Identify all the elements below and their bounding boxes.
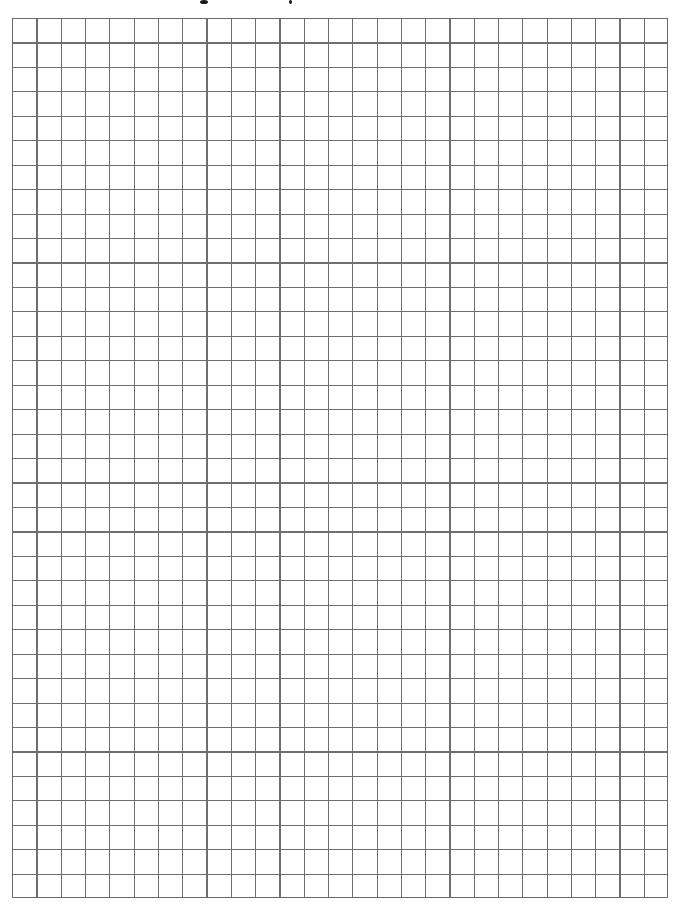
grid-horizontal-line xyxy=(13,214,667,215)
grid-horizontal-line xyxy=(13,654,667,655)
grid-horizontal-line xyxy=(13,140,667,141)
grid-horizontal-line xyxy=(13,360,667,361)
grid-horizontal-line xyxy=(13,629,667,630)
grid-horizontal-line xyxy=(13,776,667,777)
grid-horizontal-line xyxy=(13,409,667,410)
grid-horizontal-line xyxy=(13,580,667,581)
grid-horizontal-line xyxy=(13,42,667,43)
grid-horizontal-line xyxy=(13,678,667,679)
grid-horizontal-line xyxy=(13,434,667,435)
grid-horizontal-line xyxy=(13,91,667,92)
grid-horizontal-line xyxy=(13,336,667,337)
grid-horizontal-line xyxy=(13,703,667,704)
page-title-cropped xyxy=(0,0,680,6)
grid-horizontal-line xyxy=(13,116,667,117)
grid-horizontal-line xyxy=(13,727,667,728)
grid-horizontal-line xyxy=(13,874,667,875)
grid-horizontal-line xyxy=(13,531,667,532)
title-descender-mark xyxy=(200,0,208,4)
grid-horizontal-line xyxy=(13,849,667,850)
graph-paper-grid xyxy=(12,18,668,898)
grid-horizontal-line xyxy=(13,482,667,483)
grid-horizontal-line xyxy=(13,67,667,68)
grid-horizontal-line xyxy=(13,800,667,801)
title-descender-mark xyxy=(289,0,292,4)
grid-horizontal-line xyxy=(13,556,667,557)
grid-horizontal-line xyxy=(13,189,667,190)
grid-horizontal-line xyxy=(13,311,667,312)
grid-horizontal-line xyxy=(13,605,667,606)
grid-horizontal-line xyxy=(13,385,667,386)
grid-horizontal-line xyxy=(13,751,667,752)
grid-horizontal-line xyxy=(13,458,667,459)
grid-horizontal-line xyxy=(13,238,667,239)
grid-horizontal-line xyxy=(13,287,667,288)
grid-horizontal-line xyxy=(13,825,667,826)
grid-horizontal-line xyxy=(13,165,667,166)
grid-horizontal-line xyxy=(13,507,667,508)
grid-horizontal-line xyxy=(13,262,667,263)
